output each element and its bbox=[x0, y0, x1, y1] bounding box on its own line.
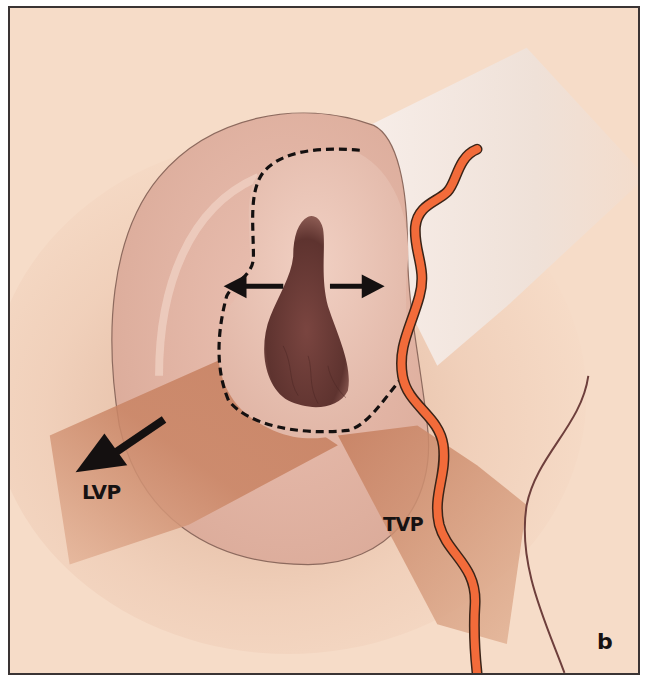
label-lvp: LVP bbox=[82, 480, 121, 504]
panel-label: b bbox=[597, 629, 612, 654]
anatomical-illustration bbox=[10, 8, 638, 673]
label-tvp: TVP bbox=[383, 513, 423, 535]
figure-frame: LVP TVP b bbox=[8, 6, 640, 675]
